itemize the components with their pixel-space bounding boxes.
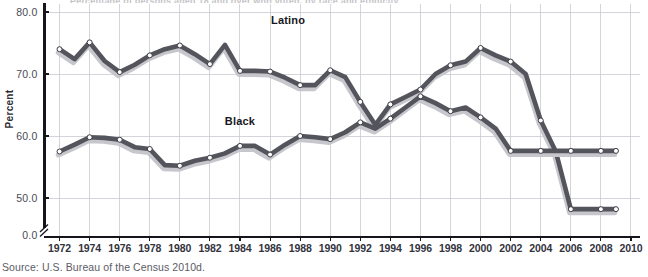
data-point-latino-2002	[508, 59, 513, 64]
data-point-latino-1998	[448, 63, 453, 68]
xtick-label-1976: 1976	[108, 242, 131, 254]
line-chart-plot: 80.070.060.050.00.0 19721974197619781980…	[0, 0, 648, 277]
y-axis-title: Percent	[4, 89, 15, 128]
data-point-black-2002	[508, 148, 513, 153]
data-point-black-1992	[358, 120, 363, 125]
xtick-label-1980: 1980	[168, 242, 191, 254]
data-point-latino-1992	[358, 99, 363, 104]
data-point-black-1974	[87, 135, 92, 140]
series-label-black: Black	[225, 115, 256, 127]
data-point-latino-1972	[57, 47, 62, 52]
vertical-gridlines	[60, 4, 631, 237]
ytick-label-zero: 0.0	[22, 229, 37, 241]
xtick-label-1984: 1984	[229, 242, 252, 254]
data-point-black-1980	[177, 163, 182, 168]
series-label-latino: Latino	[271, 14, 305, 26]
ytick-label-70: 70.0	[16, 68, 37, 80]
xtick-label-1990: 1990	[319, 242, 342, 254]
data-point-latino-2009	[613, 207, 618, 212]
ytick-label-80: 80.0	[16, 6, 37, 18]
data-point-latino-1996	[418, 87, 423, 92]
data-point-black-1994	[388, 116, 393, 121]
xtick-label-1998: 1998	[439, 242, 462, 254]
data-point-black-2008	[598, 148, 603, 153]
data-point-latino-2008	[598, 207, 603, 212]
data-point-black-2009	[613, 148, 618, 153]
data-point-black-1998	[448, 109, 453, 114]
chart-figure: Percentage of persons aged 18 and over w…	[0, 0, 648, 277]
chart-axes	[40, 3, 640, 241]
source-note: Source: U.S. Bureau of the Census 2010d.	[2, 261, 205, 273]
data-point-latino-2004	[538, 118, 543, 123]
xtick-label-1972: 1972	[48, 242, 71, 254]
xtick-label-2006: 2006	[559, 242, 582, 254]
xtick-label-1974: 1974	[78, 242, 101, 254]
data-point-black-2000	[478, 115, 483, 120]
data-point-latino-1980	[177, 43, 182, 48]
data-point-latino-1988	[298, 83, 303, 88]
xtick-label-1986: 1986	[259, 242, 282, 254]
xtick-label-2002: 2002	[499, 242, 522, 254]
xtick-label-2010: 2010	[619, 242, 642, 254]
series-line-latino	[60, 42, 616, 209]
data-point-latino-1994	[388, 102, 393, 107]
data-point-black-1976	[117, 137, 122, 142]
data-point-black-1984	[237, 143, 242, 148]
data-point-black-1996	[418, 94, 423, 99]
data-series-group	[58, 42, 616, 212]
data-point-latino-1974	[87, 40, 92, 45]
data-point-latino-1976	[117, 70, 122, 75]
data-point-black-1990	[328, 137, 333, 142]
xtick-label-1996: 1996	[409, 242, 432, 254]
xtick-label-1992: 1992	[349, 242, 372, 254]
ytick-label-60: 60.0	[16, 130, 37, 142]
ytick-label-50: 50.0	[16, 192, 37, 204]
data-point-latino-1986	[268, 69, 273, 74]
data-point-black-1986	[268, 152, 273, 157]
data-point-black-1972	[57, 149, 62, 154]
data-point-latino-2006	[568, 207, 573, 212]
xtick-label-2004: 2004	[529, 242, 552, 254]
data-point-black-1988	[298, 134, 303, 139]
xtick-label-1988: 1988	[289, 242, 312, 254]
axis-titles: Percent	[4, 89, 15, 128]
horizontal-gridlines	[45, 12, 641, 198]
data-point-black-1978	[147, 147, 152, 152]
y-axis-tick-labels: 80.070.060.050.00.0	[16, 6, 37, 241]
xtick-label-2000: 2000	[469, 242, 492, 254]
data-point-black-1982	[207, 155, 212, 160]
data-point-latino-1978	[147, 53, 152, 58]
xtick-label-1994: 1994	[379, 242, 402, 254]
xtick-label-1982: 1982	[198, 242, 221, 254]
data-point-latino-1990	[328, 68, 333, 73]
data-point-black-2006	[568, 148, 573, 153]
data-point-black-2004	[538, 148, 543, 153]
xtick-label-2008: 2008	[589, 242, 612, 254]
xtick-label-1978: 1978	[138, 242, 161, 254]
data-point-latino-1982	[207, 62, 212, 67]
data-point-latino-1984	[237, 68, 242, 73]
data-point-latino-2000	[478, 45, 483, 50]
x-axis-tick-labels: 1972197419761978198019821984198619881990…	[48, 242, 643, 254]
